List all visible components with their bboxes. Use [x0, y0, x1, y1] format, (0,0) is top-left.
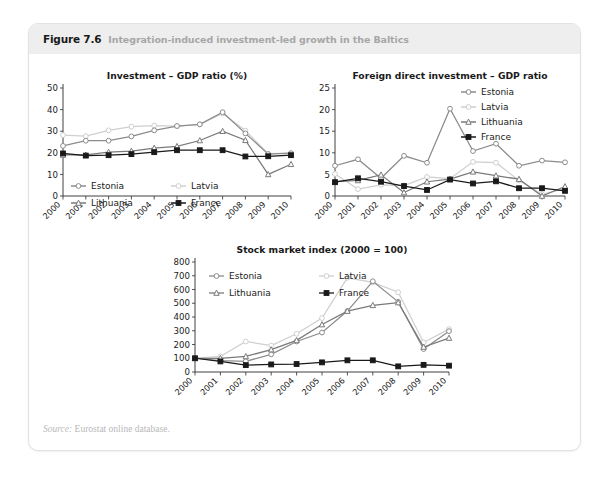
x-tick-label: 2010	[543, 199, 565, 221]
x-tick-label: 2007	[350, 375, 372, 397]
figure-title: Integration-induced investment-led growt…	[108, 34, 408, 45]
x-tick-label: 2004	[274, 375, 296, 397]
y-tick-label: 200	[174, 340, 190, 350]
figure-header: Figure 7.6 Integration-induced investmen…	[29, 24, 581, 54]
y-tick-label: 20	[319, 105, 330, 115]
chart-legend: EstoniaLatviaLithuaniaFrance	[209, 271, 369, 298]
chart-legend: EstoniaLatviaLithuaniaFrance	[461, 87, 523, 142]
chart-stock-market-index: Stock market index (2000 = 100)010020030…	[161, 242, 457, 426]
y-tick-label: 600	[174, 285, 190, 295]
x-tick-label: 2006	[325, 375, 347, 397]
legend-label: Estonia	[229, 271, 262, 281]
legend-label: France	[339, 288, 369, 298]
x-tick-label: 2000	[173, 375, 195, 397]
chart-investment-gdp-ratio: Investment – GDP ratio (%)01020304050200…	[37, 68, 299, 246]
x-tick-label: 2002	[223, 375, 245, 397]
legend-label: Estonia	[481, 87, 514, 97]
x-tick-label: 2009	[401, 375, 423, 397]
source-text: Eurostat online database.	[72, 424, 170, 434]
x-tick-label: 2004	[132, 199, 154, 221]
x-tick-label: 2007	[474, 199, 496, 221]
x-tick-label: 2008	[376, 375, 398, 397]
series-lithuania	[332, 169, 567, 198]
legend-label: Lithuania	[481, 117, 523, 127]
y-tick-label: 40	[47, 105, 58, 115]
legend-label: France	[481, 132, 511, 142]
x-tick-label: 2000	[313, 199, 335, 221]
figure-number: Figure 7.6	[43, 33, 101, 45]
y-tick-label: 50	[47, 83, 58, 93]
legend-label: Lithuania	[91, 198, 133, 208]
chart-title: Investment – GDP ratio (%)	[107, 70, 247, 81]
y-tick-label: 15	[319, 126, 330, 136]
chart-fdi-gdp-ratio: Foreign direct investment – GDP ratio051…	[311, 68, 573, 246]
x-tick-label: 2010	[269, 199, 291, 221]
legend-label: France	[191, 198, 221, 208]
chart-title: Stock market index (2000 = 100)	[237, 244, 408, 255]
x-tick-label: 2000	[41, 199, 63, 221]
series-estonia	[333, 106, 568, 180]
x-tick-label: 2008	[223, 199, 245, 221]
y-tick-label: 5	[325, 170, 330, 180]
charts-area: Investment – GDP ratio (%)01020304050200…	[29, 54, 581, 422]
y-tick-label: 10	[319, 148, 330, 158]
x-tick-label: 2003	[382, 199, 404, 221]
source-label: Source:	[43, 424, 72, 434]
y-tick-label: 100	[174, 353, 190, 363]
x-tick-label: 2001	[336, 199, 358, 221]
chart-title: Foreign direct investment – GDP ratio	[352, 70, 547, 81]
chart-svg: Stock market index (2000 = 100)010020030…	[161, 242, 457, 422]
x-tick-label: 2002	[359, 199, 381, 221]
legend-label: Latvia	[191, 181, 218, 191]
y-tick-label: 20	[47, 148, 58, 158]
x-tick-label: 2004	[405, 199, 427, 221]
x-tick-label: 2008	[497, 199, 519, 221]
legend-label: Lithuania	[229, 288, 271, 298]
y-tick-label: 300	[174, 326, 190, 336]
chart-svg: Foreign direct investment – GDP ratio051…	[311, 68, 573, 242]
x-tick-label: 2005	[300, 375, 322, 397]
x-tick-label: 2001	[198, 375, 220, 397]
x-tick-label: 2010	[427, 375, 449, 397]
legend-label: Latvia	[339, 271, 366, 281]
x-tick-label: 2009	[520, 199, 542, 221]
legend-label: Latvia	[481, 102, 508, 112]
x-tick-label: 2005	[428, 199, 450, 221]
y-tick-label: 10	[47, 170, 58, 180]
y-tick-label: 500	[174, 298, 190, 308]
x-tick-label: 2009	[246, 199, 268, 221]
x-tick-label: 2006	[451, 199, 473, 221]
legend-label: Estonia	[91, 181, 124, 191]
y-tick-label: 25	[319, 83, 330, 93]
figure-frame: Figure 7.6 Integration-induced investmen…	[28, 23, 581, 451]
x-tick-label: 2003	[249, 375, 271, 397]
y-tick-label: 30	[47, 126, 58, 136]
y-tick-label: 800	[174, 257, 190, 267]
y-tick-label: 700	[174, 271, 190, 281]
y-tick-label: 400	[174, 312, 190, 322]
source-line: Source: Eurostat online database.	[43, 424, 170, 434]
chart-svg: Investment – GDP ratio (%)01020304050200…	[37, 68, 299, 242]
